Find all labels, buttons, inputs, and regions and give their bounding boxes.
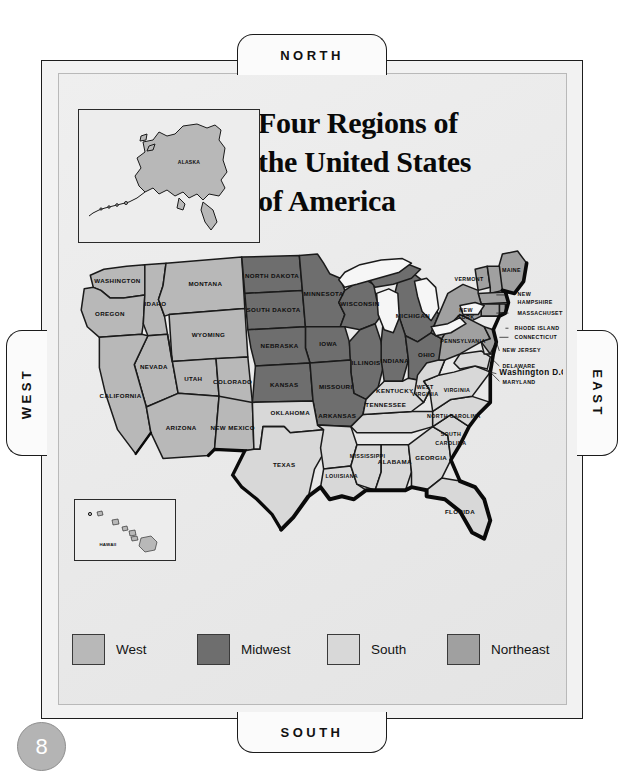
direction-tab-west-label: WEST <box>20 367 35 419</box>
label-pennsylvania: PENNSYLVANIA <box>440 338 485 344</box>
label-washington-dc: Washington D.C. <box>499 368 563 377</box>
label-new-mexico: NEW MEXICO <box>211 424 255 431</box>
legend-label-northeast: Northeast <box>491 642 550 657</box>
label-utah: UTAH <box>184 375 202 382</box>
label-louisiana: LOUISIANA <box>326 473 359 479</box>
label-kansas: KANSAS <box>270 381 298 388</box>
label-washington: WASHINGTON <box>94 277 140 284</box>
label-california: CALIFORNIA <box>100 392 142 399</box>
label-connecticut: CONNECTICUT <box>515 334 558 340</box>
label-wisconsin: WISCONSIN <box>340 300 379 307</box>
legend-swatch-midwest <box>197 634 230 665</box>
label-new-york-line2: YORK <box>458 314 475 320</box>
map-content-area: Four Regions of the United States of Ame… <box>58 73 565 703</box>
label-illinois: ILLINOIS <box>351 359 380 366</box>
label-maine: MAINE <box>502 267 521 273</box>
page-title-line-3: of America <box>258 181 538 220</box>
page-number-badge: 8 <box>17 722 66 771</box>
label-arizona: ARIZONA <box>166 424 197 431</box>
label-south-dakota: SOUTH DAKOTA <box>247 306 301 313</box>
page-title: Four Regions of the United States of Ame… <box>258 103 538 220</box>
legend-label-midwest: Midwest <box>241 642 291 657</box>
direction-tab-south-label: SOUTH <box>281 725 344 740</box>
page-number-text: 8 <box>35 734 47 760</box>
page-title-line-1: Four Regions of <box>258 103 538 142</box>
label-south-carolina-line2: CAROLINA <box>435 440 466 446</box>
alaska-label: ALASKA <box>178 159 200 165</box>
page-title-line-2: the United States <box>258 142 538 181</box>
label-vermont: VERMONT <box>454 276 484 282</box>
direction-tab-east-label: EAST <box>590 369 605 418</box>
label-tennessee: TENNESSEE <box>365 401 406 408</box>
direction-tab-east: EAST <box>577 330 618 456</box>
label-wyoming: WYOMING <box>192 331 226 338</box>
label-minnesota: MINNESOTA <box>304 290 344 297</box>
alaska-inset: ALASKA <box>78 109 260 243</box>
label-nevada: NEVADA <box>140 363 168 370</box>
label-colorado: COLORADO <box>213 378 252 385</box>
label-new-hampshire-line2: HAMPSHIRE <box>518 299 553 305</box>
label-north-dakota: NORTH DAKOTA <box>245 272 299 279</box>
direction-tab-north: NORTH <box>237 34 387 75</box>
label-ohio: OHIO <box>418 351 435 358</box>
state-arkansas <box>318 425 357 469</box>
state-new-hampshire <box>487 266 502 293</box>
label-florida: FLORIDA <box>445 508 475 515</box>
direction-tab-west: WEST <box>6 330 47 456</box>
label-arkansas: ARKANSAS <box>318 412 356 419</box>
label-rhode-island: RHODE ISLAND <box>515 325 560 331</box>
legend-item-south: South <box>327 634 406 665</box>
label-indiana: INDIANA <box>381 357 410 364</box>
label-maryland: MARYLAND <box>502 379 535 385</box>
worksheet-page: NORTH SOUTH WEST EAST Four Regions of th… <box>0 0 623 782</box>
legend-label-west: West <box>116 642 147 657</box>
legend-swatch-south <box>327 634 360 665</box>
legend-item-midwest: Midwest <box>197 634 291 665</box>
state-massachusetts <box>478 292 508 304</box>
label-iowa: IOWA <box>319 340 337 347</box>
label-kentucky: KENTUCKY <box>376 387 414 394</box>
label-massachusetts: MASSACHUSETTS <box>518 310 563 316</box>
legend-item-northeast: Northeast <box>447 634 550 665</box>
label-oklahoma: OKLAHOMA <box>271 409 311 416</box>
label-north-carolina: NORTH CAROLINA <box>427 413 481 419</box>
label-west-virginia-line1: WEST <box>417 384 434 390</box>
label-west-virginia-line2: VIRGINIA <box>412 391 439 397</box>
label-new-jersey: NEW JERSEY <box>502 347 541 353</box>
label-virginia: VIRGINIA <box>444 387 471 393</box>
label-georgia: GEORGIA <box>415 454 447 461</box>
label-new-hampshire-line1: NEW <box>518 291 532 297</box>
state-alabama <box>375 445 411 490</box>
direction-tab-south: SOUTH <box>237 712 387 753</box>
label-nebraska: NEBRASKA <box>261 342 299 349</box>
label-oregon: OREGON <box>95 310 125 317</box>
label-south-carolina-line1: SOUTH <box>441 431 461 437</box>
map-legend: West Midwest South Northeast <box>72 628 562 673</box>
label-texas: TEXAS <box>273 461 296 468</box>
label-alabama: ALABAMA <box>378 458 412 465</box>
legend-label-south: South <box>371 642 406 657</box>
label-montana: MONTANA <box>189 280 223 287</box>
label-idaho: IDAHO <box>144 300 166 307</box>
us-regions-map: WASHINGTON OREGON IDAHO MONTANA WYOMING … <box>63 248 563 578</box>
direction-tab-north-label: NORTH <box>280 48 344 63</box>
label-new-york-line1: NEW <box>459 307 473 313</box>
legend-swatch-northeast <box>447 634 480 665</box>
legend-swatch-west <box>72 634 105 665</box>
label-missouri: MISSOURI <box>319 383 353 390</box>
legend-item-west: West <box>72 634 147 665</box>
label-michigan: MICHIGAN <box>396 312 430 319</box>
